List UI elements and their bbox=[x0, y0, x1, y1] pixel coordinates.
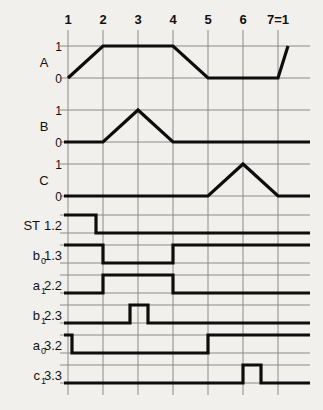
waveform-B bbox=[64, 110, 310, 142]
level-label-B-0: 0 bbox=[55, 136, 62, 150]
level-label-B-1: 1 bbox=[55, 104, 62, 118]
waveform-b0 bbox=[64, 245, 310, 263]
signal-address-b1: 2.3 bbox=[44, 308, 62, 323]
signal-label-ST: ST bbox=[23, 218, 40, 233]
analog-waveforms: A10B10C10 bbox=[39, 40, 310, 204]
level-label-A-0: 0 bbox=[55, 72, 62, 86]
signal-label-C: C bbox=[39, 173, 48, 188]
column-header-4: 4 bbox=[169, 12, 177, 27]
level-label-C-0: 0 bbox=[55, 190, 62, 204]
signal-address-a0: 3.2 bbox=[44, 338, 62, 353]
level-label-C-1: 1 bbox=[55, 158, 62, 172]
waveform-ST bbox=[64, 215, 310, 233]
timing-diagram-page: 1234567=1 A10B10C10 ST1.2b01.3a12.2b12.3… bbox=[0, 0, 323, 410]
waveform-c1 bbox=[64, 365, 310, 383]
column-headers: 1234567=1 bbox=[64, 12, 289, 27]
signal-label-A: A bbox=[40, 55, 49, 70]
column-header-1: 1 bbox=[64, 12, 71, 27]
signal-label-a0: a bbox=[33, 338, 41, 353]
signal-label-a1: a bbox=[33, 278, 41, 293]
grid-vertical-lines bbox=[68, 30, 278, 395]
signal-label-b1: b bbox=[33, 308, 40, 323]
signal-label-B: B bbox=[40, 119, 49, 134]
waveform-A bbox=[68, 46, 288, 78]
column-header-5: 5 bbox=[204, 12, 211, 27]
signal-label-c1: c bbox=[34, 368, 41, 383]
signal-label-b0: b bbox=[33, 248, 40, 263]
signal-address-c1: 3.3 bbox=[44, 368, 62, 383]
level-label-A-1: 1 bbox=[55, 40, 62, 54]
column-header-7=1: 7=1 bbox=[267, 12, 289, 27]
waveform-b1 bbox=[64, 305, 310, 323]
column-header-2: 2 bbox=[99, 12, 106, 27]
column-header-3: 3 bbox=[134, 12, 141, 27]
signal-address-ST: 1.2 bbox=[44, 218, 62, 233]
signal-address-a1: 2.2 bbox=[44, 278, 62, 293]
column-header-6: 6 bbox=[239, 12, 246, 27]
signal-address-b0: 1.3 bbox=[44, 248, 62, 263]
timing-diagram: 1234567=1 A10B10C10 ST1.2b01.3a12.2b12.3… bbox=[0, 0, 323, 410]
waveform-C bbox=[64, 164, 310, 196]
digital-waveforms: ST1.2b01.3a12.2b12.3a03.2c13.3 bbox=[23, 215, 310, 386]
waveform-a0 bbox=[64, 335, 310, 353]
waveform-a1 bbox=[64, 275, 310, 293]
